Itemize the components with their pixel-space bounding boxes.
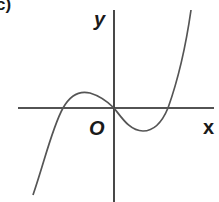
graph-canvas — [0, 0, 219, 202]
y-axis-label: y — [94, 9, 105, 29]
cubic-curve — [33, 10, 191, 195]
panel-label: c) — [0, 0, 11, 13]
x-axis-label: x — [203, 117, 214, 137]
origin-label: O — [89, 118, 105, 138]
